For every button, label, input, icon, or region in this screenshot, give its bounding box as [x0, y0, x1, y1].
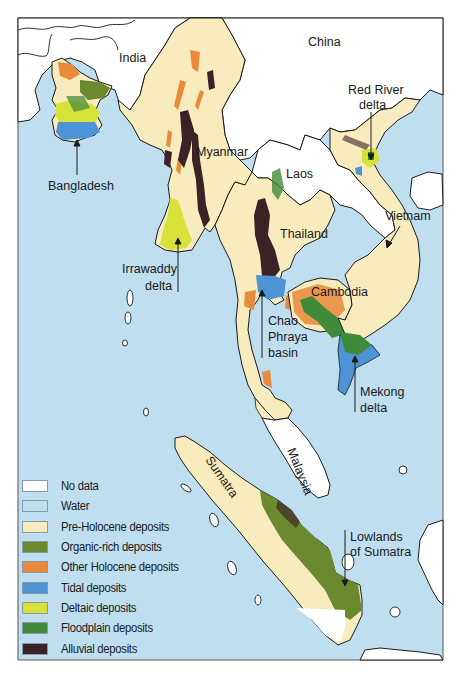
label-lowlands-2: of Sumatra: [350, 545, 411, 559]
label-mekong-1: Mekong: [360, 385, 405, 399]
legend-label: Alluvial deposits: [61, 642, 137, 656]
label-chao-1: Chao: [268, 314, 298, 328]
legend-item-deltaic: Deltaic deposits: [22, 598, 192, 618]
legend-item-alluvial: Alluvial deposits: [22, 638, 192, 658]
legend-swatch: [22, 541, 48, 553]
label-vietnam: Vietnam: [385, 209, 431, 223]
legend-label: Tidal deposits: [61, 581, 126, 595]
legend-label: No data: [61, 479, 99, 493]
label-red-river-2: delta: [359, 98, 386, 112]
legend-label: Deltaic deposits: [61, 601, 136, 615]
legend-swatch: [22, 622, 48, 634]
legend-item-tidal: Tidal deposits: [22, 577, 192, 597]
legend-swatch: [22, 500, 48, 512]
legend-item-no-data: No data: [22, 476, 192, 496]
legend-swatch: [22, 582, 48, 594]
legend-swatch: [22, 521, 48, 533]
legend-label: Other Holocene deposits: [61, 560, 179, 574]
label-india: India: [119, 51, 146, 65]
label-laos: Laos: [286, 167, 313, 181]
legend-label: Water: [61, 499, 89, 513]
hainan-island: [410, 172, 443, 210]
legend-label: Floodplain deposits: [61, 621, 153, 635]
legend-item-water: Water: [22, 496, 192, 516]
label-irrawaddy-2: delta: [145, 279, 172, 293]
label-cambodia: Cambodia: [311, 285, 368, 299]
label-chao-3: basin: [268, 346, 298, 360]
label-myanmar: Myanmar: [196, 145, 248, 159]
label-mekong-2: delta: [360, 401, 387, 415]
label-thailand: Thailand: [280, 227, 328, 241]
legend-item-pre-holocene: Pre-Holocene deposits: [22, 517, 192, 537]
label-irrawaddy-1: Irrawaddy: [122, 262, 178, 276]
legend-swatch: [22, 561, 48, 573]
legend-swatch: [22, 643, 48, 655]
legend-item-floodplain: Floodplain deposits: [22, 618, 192, 638]
label-chao-2: Phraya: [268, 330, 308, 344]
legend-swatch: [22, 480, 48, 492]
legend-item-organic-rich: Organic-rich deposits: [22, 537, 192, 557]
label-china: China: [308, 35, 341, 49]
legend-item-other-holocene: Other Holocene deposits: [22, 557, 192, 577]
map-legend: No data Water Pre-Holocene deposits Orga…: [22, 476, 192, 659]
legend-label: Organic-rich deposits: [61, 540, 162, 554]
legend-label: Pre-Holocene deposits: [61, 520, 169, 534]
label-red-river-1: Red River: [348, 83, 404, 97]
label-bangladesh: Bangladesh: [48, 179, 114, 193]
label-lowlands-1: Lowlands: [350, 530, 403, 544]
legend-swatch: [22, 602, 48, 614]
